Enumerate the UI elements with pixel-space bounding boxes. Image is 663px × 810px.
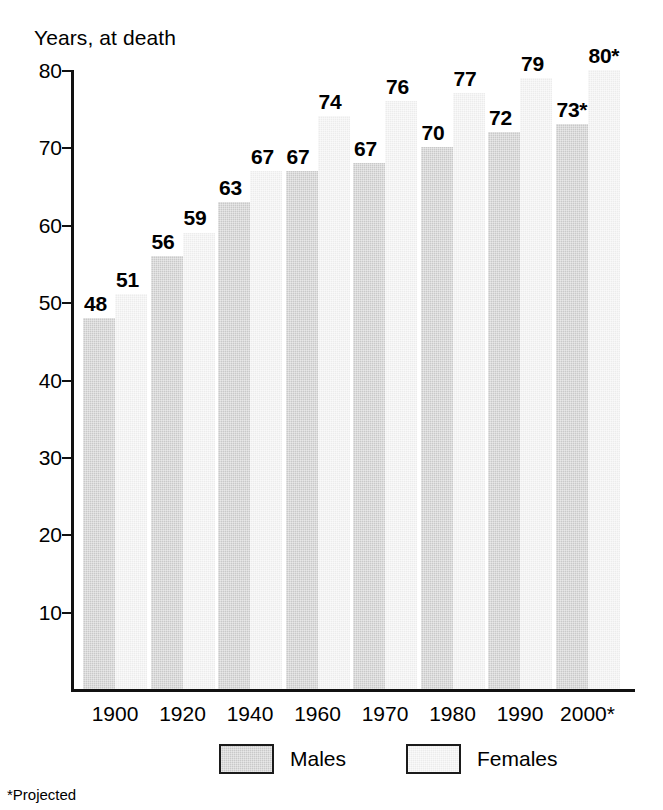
bar-value-label: 63 bbox=[219, 176, 242, 200]
bar-females-1970 bbox=[385, 101, 417, 689]
y-tick-label: 30 bbox=[39, 446, 62, 470]
legend-item-females: Females bbox=[406, 744, 558, 774]
bar-females-2000 bbox=[588, 70, 620, 689]
bar-males-1990 bbox=[488, 132, 520, 689]
chart-legend: Males Females bbox=[0, 744, 663, 784]
bar-males-1920 bbox=[151, 256, 183, 689]
y-tick-mark bbox=[62, 147, 74, 149]
bar-males-1900 bbox=[83, 318, 115, 689]
y-tick-label: 50 bbox=[39, 291, 62, 315]
y-tick-label: 70 bbox=[39, 136, 62, 160]
legend-swatch-females-icon bbox=[406, 744, 461, 774]
y-tick-label: 10 bbox=[39, 601, 62, 625]
y-tick-mark bbox=[62, 534, 74, 536]
bar-value-label: 56 bbox=[152, 230, 175, 254]
bar-value-label: 67 bbox=[251, 145, 274, 169]
bar-value-label: 59 bbox=[184, 206, 207, 230]
x-axis-label-1980: 1980 bbox=[429, 702, 476, 726]
x-axis-line bbox=[71, 689, 635, 692]
legend-item-males: Males bbox=[219, 744, 346, 774]
bar-males-1980 bbox=[421, 147, 453, 689]
legend-label-females: Females bbox=[477, 747, 558, 771]
bar-value-label: 70 bbox=[422, 121, 445, 145]
footnote-projected: *Projected bbox=[7, 786, 76, 803]
y-tick-mark bbox=[62, 457, 74, 459]
bar-females-1920 bbox=[183, 233, 215, 690]
bar-males-1940 bbox=[218, 202, 250, 689]
y-tick-label: 20 bbox=[39, 523, 62, 547]
bar-value-label: 51 bbox=[116, 268, 139, 292]
bar-females-1990 bbox=[520, 78, 552, 689]
bar-value-label: 76 bbox=[386, 75, 409, 99]
y-tick-label: 80 bbox=[39, 59, 62, 83]
bar-value-label: 77 bbox=[454, 67, 477, 91]
bar-value-label: 79 bbox=[521, 52, 544, 76]
bar-females-1960 bbox=[318, 116, 350, 689]
bar-males-1970 bbox=[353, 163, 385, 689]
bar-females-1940 bbox=[250, 171, 282, 689]
y-axis-title: Years, at death bbox=[34, 26, 176, 50]
bar-males-2000 bbox=[556, 124, 588, 689]
x-axis-label-1940: 1940 bbox=[227, 702, 274, 726]
bar-value-label: 48 bbox=[84, 292, 107, 316]
bar-value-label: 72 bbox=[489, 106, 512, 130]
y-tick-mark bbox=[62, 225, 74, 227]
y-tick-label: 40 bbox=[39, 369, 62, 393]
bar-females-1900 bbox=[115, 294, 147, 689]
y-tick-mark bbox=[62, 380, 74, 382]
x-axis-label-1960: 1960 bbox=[294, 702, 341, 726]
bar-females-1980 bbox=[453, 93, 485, 689]
legend-swatch-males-icon bbox=[219, 744, 274, 774]
plot-area: 1020304050607080 48515659636767746776707… bbox=[71, 70, 635, 692]
bar-males-1960 bbox=[286, 171, 318, 689]
y-tick-mark bbox=[62, 612, 74, 614]
bar-value-label: 74 bbox=[319, 90, 342, 114]
x-axis-label-2000: 2000* bbox=[560, 702, 615, 726]
life-expectancy-bar-chart: Years, at death 1020304050607080 4851565… bbox=[0, 0, 663, 810]
bar-value-label: 67 bbox=[354, 137, 377, 161]
y-tick-mark bbox=[62, 302, 74, 304]
bar-value-label: 80* bbox=[589, 44, 620, 68]
legend-label-males: Males bbox=[290, 747, 346, 771]
x-axis-label-1970: 1970 bbox=[362, 702, 409, 726]
x-axis-label-1920: 1920 bbox=[159, 702, 206, 726]
bar-value-label: 73* bbox=[557, 98, 588, 122]
x-axis-label-1900: 1900 bbox=[92, 702, 139, 726]
y-tick-label: 60 bbox=[39, 214, 62, 238]
bar-value-label: 67 bbox=[287, 145, 310, 169]
x-axis-label-1990: 1990 bbox=[497, 702, 544, 726]
y-tick-mark bbox=[62, 70, 74, 72]
